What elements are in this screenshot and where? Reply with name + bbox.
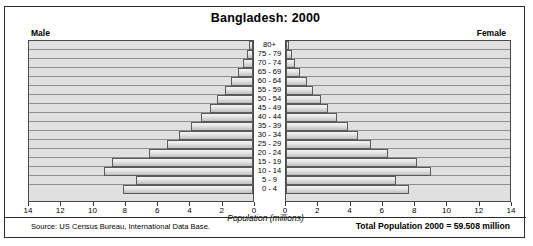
female-plot-panel	[285, 40, 511, 202]
female-bar-5-9	[286, 176, 396, 185]
table-row	[286, 131, 510, 140]
female-bar-75-79	[286, 50, 292, 59]
male-bar-35-39	[191, 122, 253, 131]
age-group-label: 70 - 74	[254, 58, 285, 67]
female-side-caption: Female	[477, 28, 506, 38]
table-row	[286, 95, 510, 104]
age-group-label: 50 - 54	[254, 94, 285, 103]
table-row	[29, 50, 253, 59]
male-bar-65-69	[238, 68, 253, 77]
population-pyramid-figure: Bangladesh: 2000 Male Female 80+75 - 797…	[4, 6, 525, 238]
table-row	[286, 185, 510, 194]
male-bar-80+	[249, 41, 253, 50]
female-bar-0-4	[286, 185, 409, 194]
table-row	[286, 122, 510, 131]
female-bar-30-34	[286, 131, 358, 140]
table-row	[286, 59, 510, 68]
male-bar-10-14	[104, 167, 253, 176]
male-bar-45-49	[210, 104, 253, 113]
male-bar-60-64	[231, 77, 253, 86]
age-group-label: 60 - 64	[254, 76, 285, 85]
table-row	[286, 113, 510, 122]
female-bar-rows	[286, 41, 510, 201]
table-row	[29, 95, 253, 104]
male-bar-5-9	[136, 176, 253, 185]
male-bar-25-29	[167, 140, 253, 149]
female-bar-50-54	[286, 95, 321, 104]
age-group-axis: 80+75 - 7970 - 7465 - 6960 - 6455 - 5950…	[254, 40, 285, 202]
female-bar-45-49	[286, 104, 328, 113]
age-group-label: 30 - 34	[254, 130, 285, 139]
source-note: Source: US Census Bureau, International …	[31, 222, 210, 231]
age-group-label: 5 - 9	[254, 175, 285, 184]
table-row	[29, 113, 253, 122]
female-bar-55-59	[286, 86, 313, 95]
male-bar-40-44	[201, 113, 253, 122]
male-side-caption: Male	[31, 28, 50, 38]
table-row	[29, 149, 253, 158]
age-group-label: 35 - 39	[254, 121, 285, 130]
female-bar-60-64	[286, 77, 307, 86]
age-group-label: 40 - 44	[254, 112, 285, 121]
male-bar-0-4	[123, 185, 253, 194]
table-row	[29, 158, 253, 167]
female-bar-40-44	[286, 113, 337, 122]
male-bar-55-59	[225, 86, 253, 95]
table-row	[286, 140, 510, 149]
age-group-label: 65 - 69	[254, 67, 285, 76]
male-bar-50-54	[217, 95, 253, 104]
age-group-label: 0 - 4	[254, 184, 285, 193]
table-row	[286, 149, 510, 158]
table-row	[29, 185, 253, 194]
table-row	[286, 158, 510, 167]
female-bar-20-24	[286, 149, 388, 158]
table-row	[286, 68, 510, 77]
age-group-label: 15 - 19	[254, 157, 285, 166]
male-bar-15-19	[112, 158, 253, 167]
male-bar-70-74	[243, 59, 253, 68]
page-title: Bangladesh: 2000	[5, 11, 526, 25]
age-group-label: 10 - 14	[254, 166, 285, 175]
male-bar-30-34	[179, 131, 253, 140]
age-group-label: 55 - 59	[254, 85, 285, 94]
table-row	[29, 77, 253, 86]
female-bar-10-14	[286, 167, 431, 176]
male-bar-rows	[29, 41, 253, 201]
table-row	[286, 41, 510, 50]
figure-footer: Source: US Census Bureau, International …	[5, 217, 526, 237]
table-row	[286, 167, 510, 176]
table-row	[29, 131, 253, 140]
total-population-label: Total Population 2000 = 59.508 million	[356, 221, 510, 231]
table-row	[286, 104, 510, 113]
female-bar-15-19	[286, 158, 417, 167]
table-row	[29, 86, 253, 95]
male-bar-75-79	[247, 50, 253, 59]
table-row	[29, 176, 253, 185]
female-bar-65-69	[286, 68, 300, 77]
table-row	[286, 50, 510, 59]
age-group-label: 25 - 29	[254, 139, 285, 148]
female-bar-35-39	[286, 122, 348, 131]
table-row	[286, 77, 510, 86]
age-group-label: 45 - 49	[254, 103, 285, 112]
female-bar-25-29	[286, 140, 371, 149]
age-group-label: 80+	[254, 40, 285, 49]
table-row	[286, 86, 510, 95]
table-row	[29, 41, 253, 50]
female-bar-80+	[286, 41, 289, 50]
table-row	[29, 140, 253, 149]
age-group-label: 75 - 79	[254, 49, 285, 58]
table-row	[29, 122, 253, 131]
age-group-label: 20 - 24	[254, 148, 285, 157]
table-row	[29, 68, 253, 77]
table-row	[286, 176, 510, 185]
table-row	[29, 167, 253, 176]
female-bar-70-74	[286, 59, 295, 68]
table-row	[29, 59, 253, 68]
male-plot-panel	[28, 40, 254, 202]
table-row	[29, 104, 253, 113]
male-bar-20-24	[149, 149, 253, 158]
